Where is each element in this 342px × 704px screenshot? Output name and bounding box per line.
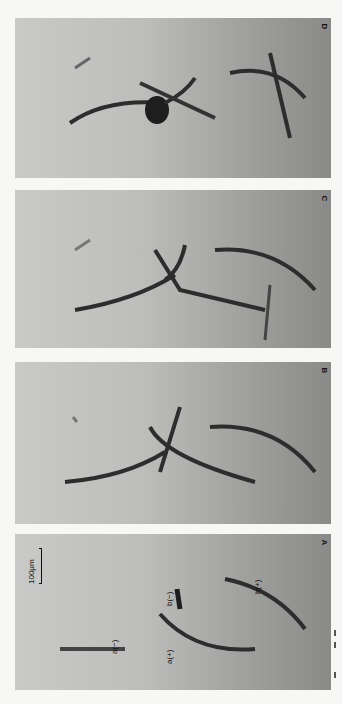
margin-mark [334,642,336,648]
label-a-minus: a(−) [110,640,119,654]
panel-b: B [15,362,331,524]
panel-a: 100μm a(−) a(+) b(−) b(+) A [15,534,331,690]
panel-letter-c: C [321,196,330,202]
margin-mark [334,630,336,636]
label-a-plus: a(+) [165,650,174,664]
scale-bar-label: 100μm [27,559,36,584]
margin-mark [334,672,336,678]
scale-bar-line [39,548,42,584]
micrograph-c [15,190,331,348]
panel-letter-b: B [321,368,330,374]
panel-d: D [15,18,331,178]
scale-bar: 100μm [27,548,45,584]
label-b-minus: b(−) [165,592,174,606]
panel-letter-d: D [321,24,330,30]
micrograph-b [15,362,331,524]
label-b-plus: b(+) [253,580,262,594]
panel-c: C [15,190,331,348]
micrograph-d [15,18,331,178]
micrograph-a [15,534,331,690]
panel-letter-a: A [321,540,330,546]
